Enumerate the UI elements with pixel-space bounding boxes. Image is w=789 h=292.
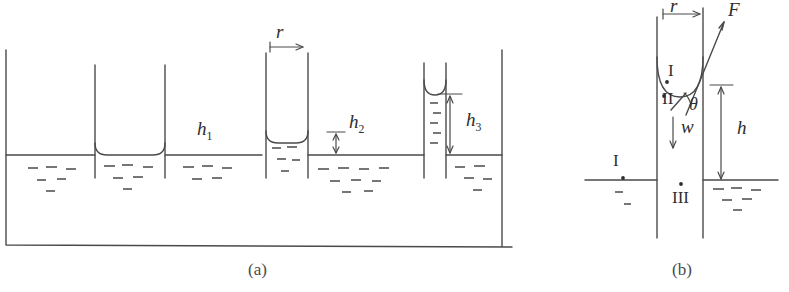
label-h3: h3: [466, 110, 481, 134]
liquid-hatching-a: [28, 103, 492, 192]
label-h3-base: h: [466, 109, 476, 130]
caption-panel-b: (b): [672, 261, 692, 278]
h3-dimension: [438, 94, 462, 153]
label-h2-base: h: [349, 111, 359, 132]
label-h2-sub: 2: [359, 123, 365, 136]
label-h1-base: h: [197, 118, 207, 139]
label-point-II: II: [662, 90, 673, 107]
label-point-III: III: [672, 189, 689, 206]
label-h1-sub: 1: [207, 130, 213, 143]
label-h3-sub: 3: [476, 121, 482, 134]
tube3-meniscus: [424, 80, 446, 95]
radius-dimension-a: [270, 42, 303, 52]
vessel-outline: [6, 50, 512, 247]
label-h1: h1: [197, 119, 212, 143]
label-point-I-inner: I: [668, 62, 674, 79]
label-radius-a: r: [276, 22, 283, 41]
label-weight-w: w: [681, 117, 694, 136]
label-h2: h2: [349, 112, 364, 136]
point-dot-I-inner: [665, 80, 669, 84]
caption-panel-a: (a): [248, 261, 267, 278]
tube1-meniscus: [95, 143, 165, 155]
point-dot-III: [679, 182, 683, 186]
weight-vector-w: [670, 117, 676, 148]
h-dimension-b: [710, 85, 733, 179]
label-angle-theta: θ: [689, 95, 698, 113]
h2-dimension: [327, 132, 345, 153]
label-point-I-outer: I: [613, 152, 619, 169]
point-dot-I-outer: [621, 176, 625, 180]
label-force-F: F: [728, 0, 740, 19]
label-height-h: h: [737, 118, 747, 137]
radius-dimension-b: [663, 9, 700, 19]
capillary-action-figure: [0, 0, 789, 292]
tube2-meniscus: [266, 131, 308, 143]
label-radius-b: r: [670, 0, 677, 15]
